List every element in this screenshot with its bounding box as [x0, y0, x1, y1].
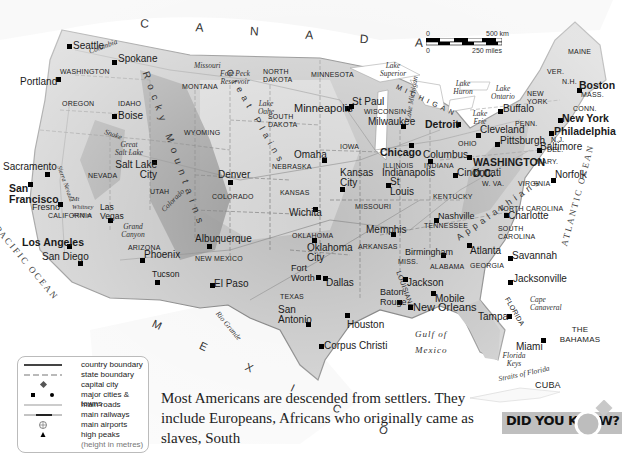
city-label: Oklahoma City [307, 243, 357, 263]
feature-label-florida-keys: Florida Keys [502, 352, 526, 368]
city-label: Minneapolis [294, 103, 353, 114]
city-label: Columbus [423, 150, 468, 160]
city-label: New York [562, 113, 609, 124]
city-label: Kansas City [340, 168, 380, 188]
legend-item-height-note: (height in metres) [18, 440, 148, 450]
feature-label-lake-erie: Lake Erie [470, 110, 490, 126]
city-label: Tucson [152, 270, 180, 279]
legend-item-major-cities: major cities & towns [18, 390, 148, 400]
city-label: Spokane [118, 54, 157, 64]
city-label: Buffalo [503, 104, 534, 114]
city-label: St Louis [390, 177, 410, 197]
state-label: NORTH DAKOTA [263, 68, 303, 84]
body-paragraph: Most Americans are descended from settle… [161, 388, 491, 448]
scale-bar-graphic [426, 38, 502, 46]
city-label: El Paso [214, 279, 248, 289]
city-label: Atlanta [470, 246, 501, 256]
capital-label: WASHINGTON D.C. [473, 157, 533, 179]
city-label: Omaha [294, 150, 327, 160]
city-marker [112, 114, 117, 119]
state-label: WASHINGTON [60, 68, 110, 75]
legend-item-main-airports: main airports [18, 420, 148, 430]
state-label: TENNESSEE [424, 222, 468, 229]
state-label: NEW MEXICO [195, 255, 243, 262]
city-label: Cleveland [480, 125, 524, 135]
state-label: UTAH [150, 188, 169, 195]
city-marker [345, 313, 350, 318]
feature-label-lake-superior: Lake Superior [378, 62, 408, 78]
state-label: IDAHO [118, 100, 141, 107]
city-marker [67, 44, 72, 49]
legend-item-state-boundary: state boundary [18, 370, 148, 380]
city-label: Fort Worth [291, 263, 319, 283]
state-label: KENTUCKY [433, 193, 473, 200]
city-label: Savannah [512, 251, 557, 261]
state-label: VIRGINIA [518, 180, 550, 187]
legend-item-country-boundary: country boundary [18, 360, 148, 370]
state-label: MONTANA [182, 83, 218, 90]
city-label: Mobile [435, 294, 464, 304]
info-bubble-icon [570, 400, 613, 444]
map-legend: country boundary state boundary capital … [17, 356, 149, 453]
city-label: Norfolk [555, 170, 587, 180]
city-label: Boise [118, 111, 143, 121]
state-label: OHIO [458, 140, 477, 147]
legend-item-main-railways: main railways [18, 410, 148, 420]
city-label: Corpus Christi [324, 341, 387, 351]
state-label: NEVADA [88, 172, 117, 179]
city-marker [45, 172, 50, 177]
legend-item-capital-city: capital city [18, 380, 148, 390]
city-label: Baltimore [540, 142, 582, 152]
scale-km-zero: 0 [426, 30, 430, 37]
city-label: San Diego [42, 252, 89, 262]
feature-label-lake-ontario: Lake Ontario [488, 85, 518, 101]
state-label: WISCONSIN [364, 108, 406, 115]
country-label-bahamas: THE BAHAMAS [555, 325, 605, 345]
solid-line-icon [24, 360, 70, 370]
city-label: Chicago [380, 147, 421, 158]
city-label: Philadelphia [554, 126, 616, 137]
road-line-icon [24, 400, 70, 410]
city-marker [155, 280, 160, 285]
city-label: Jackson [407, 278, 444, 288]
city-label: Indianapolis [382, 168, 435, 178]
city-label: Pittsburgh [500, 136, 545, 146]
state-label: WYOMING [184, 129, 220, 136]
city-label: Sacramento [3, 162, 57, 172]
city-label: Baton Rouge [380, 287, 410, 307]
feature-label-mt-whitney: Mt Whitney 4418 m [72, 195, 100, 219]
scale-mi-label: 250 miles [472, 47, 502, 54]
state-label: CONN. [573, 105, 597, 112]
city-label: Jacksonville [513, 274, 567, 284]
city-marker [112, 60, 117, 65]
railway-line-icon [24, 410, 70, 420]
feature-label-lake-huron: Lake Huron [450, 80, 476, 96]
city-label: Los Angeles [22, 237, 84, 248]
feature-label-grand-canyon: Grand Canyon [118, 223, 148, 239]
city-label: Charlotte [508, 211, 549, 221]
city-label: Portland [20, 77, 57, 87]
scale-mi-zero: 0 [426, 47, 430, 54]
state-label: IOWA [340, 143, 359, 150]
state-label: MISS. [398, 258, 418, 265]
state-label: MAINE [568, 48, 591, 55]
state-label: SOUTH CAROLINA [498, 225, 543, 241]
city-label: Detroit [425, 119, 459, 130]
state-label: MINNESOTA [311, 71, 354, 78]
state-label: GEORGIA [470, 262, 504, 269]
city-label: Nashville [438, 212, 475, 221]
feature-label-missouri: Missouri [194, 62, 221, 70]
state-label: TEXAS [280, 293, 304, 300]
city-label: St Paul [352, 97, 384, 107]
city-label: Houston [347, 320, 384, 330]
feature-label-cape-canaveral: Cape Canaveral [530, 296, 566, 312]
country-label-cuba: CUBA [535, 381, 561, 390]
scale-km-label: 500 km [486, 30, 509, 37]
legend-item-main-roads: main roads [18, 400, 148, 410]
state-label: NEBRASKA [272, 163, 312, 170]
city-marker [228, 180, 233, 185]
peak-triangle-icon [24, 430, 70, 440]
feature-label-lake-oahe: Lake Oahe [255, 100, 277, 116]
state-label: COLORADO [212, 193, 254, 200]
city-label: Wichita [289, 208, 322, 218]
